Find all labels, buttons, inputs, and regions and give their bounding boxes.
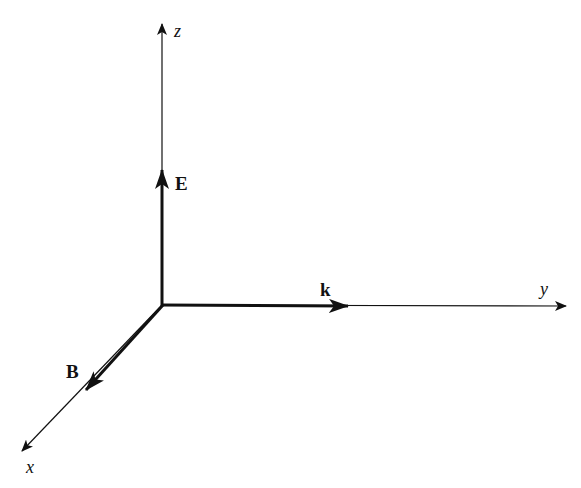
diagram-canvas bbox=[0, 0, 581, 488]
x-axis-label: x bbox=[26, 458, 34, 476]
e-vector-label: E bbox=[175, 174, 188, 193]
k-vector-arrow bbox=[161, 305, 348, 306]
z-axis-label: z bbox=[174, 22, 181, 40]
b-vector-label: B bbox=[66, 362, 79, 381]
x-axis bbox=[22, 305, 162, 451]
k-vector-label: k bbox=[320, 280, 331, 299]
b-vector-arrow bbox=[86, 305, 163, 390]
y-axis-label: y bbox=[540, 280, 548, 298]
